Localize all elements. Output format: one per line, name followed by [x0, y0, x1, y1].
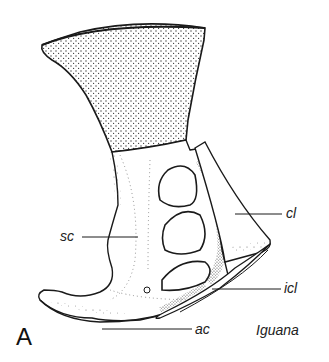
label-cl: cl [286, 206, 296, 220]
suprascapula [42, 24, 205, 152]
panel-letter: A [16, 325, 32, 349]
label-ac: ac [195, 322, 210, 336]
label-sc: sc [60, 229, 74, 243]
label-icl: icl [284, 281, 297, 295]
taxon-label: Iguana [256, 323, 299, 337]
anatomical-figure: cl sc icl ac Iguana A [0, 0, 329, 362]
pectoral-girdle-drawing [0, 0, 329, 362]
